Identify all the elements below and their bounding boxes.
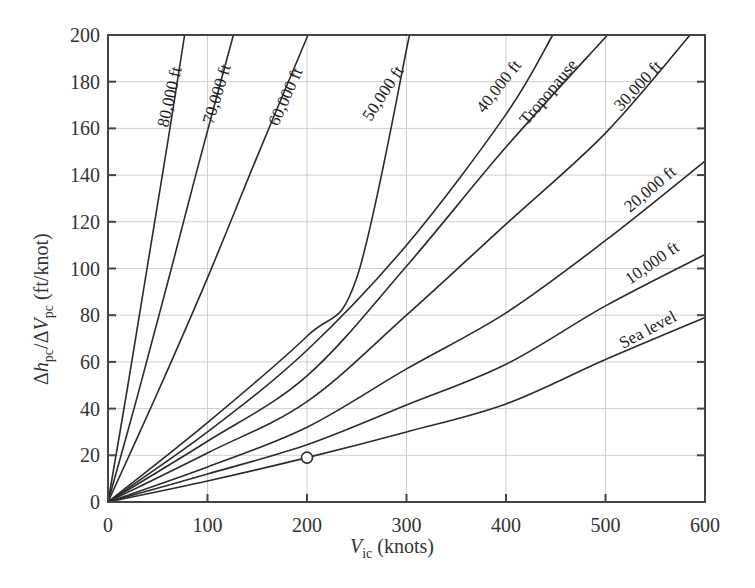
curve-label-70000ft: 70,000 ft bbox=[199, 62, 235, 127]
y-axis-title: Δhpc/ΔVpc (ft/knot) bbox=[30, 233, 56, 385]
x-tick-label: 100 bbox=[193, 514, 223, 536]
x-tick-label: 0 bbox=[103, 514, 113, 536]
y-tick-label: 140 bbox=[70, 164, 100, 186]
y-tick-label: 120 bbox=[70, 211, 100, 233]
y-tick-label: 200 bbox=[70, 24, 100, 46]
curve-label-sea-level: Sea level bbox=[616, 307, 680, 353]
y-tick-label: 80 bbox=[80, 304, 100, 326]
y-tick-label: 60 bbox=[80, 351, 100, 373]
y-tick-label: 40 bbox=[80, 398, 100, 420]
circle-marker bbox=[302, 452, 313, 463]
x-tick-label: 500 bbox=[591, 514, 621, 536]
x-tick-label: 300 bbox=[392, 514, 422, 536]
y-tick-label: 100 bbox=[70, 258, 100, 280]
y-tick-label: 0 bbox=[90, 491, 100, 513]
y-tick-label: 20 bbox=[80, 444, 100, 466]
x-axis-title: Vic (knots) bbox=[350, 535, 434, 561]
curve-label-80000ft: 80,000 ft bbox=[153, 65, 185, 129]
curve-label-40000ft: 40,000 ft bbox=[472, 56, 525, 116]
curve-label-30000ft: 30,000 ft bbox=[610, 57, 666, 115]
curve-label-tropopause: Tropopause bbox=[516, 55, 582, 128]
y-tick-label: 160 bbox=[70, 117, 100, 139]
x-tick-label: 400 bbox=[491, 514, 521, 536]
circle-marker-icon bbox=[302, 452, 313, 463]
curve-label-50000ft: 50,000 ft bbox=[358, 62, 408, 124]
chart: 0100200300400500600020406080100120140160… bbox=[0, 0, 755, 588]
x-tick-label: 200 bbox=[292, 514, 322, 536]
x-tick-label: 600 bbox=[690, 514, 720, 536]
y-tick-label: 180 bbox=[70, 71, 100, 93]
curve-label-60000ft: 60,000 ft bbox=[264, 65, 306, 129]
